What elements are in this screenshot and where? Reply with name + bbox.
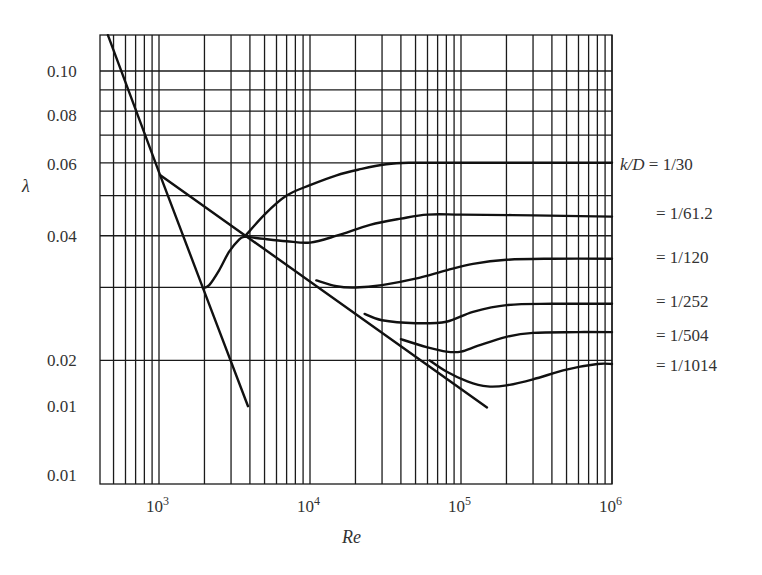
curve-k-d-1-30: [245, 163, 612, 237]
curve-k-d-1-120: [316, 259, 612, 288]
legend-kd-1-252: = 1/252: [656, 292, 709, 311]
legend: k/D = 1/30 = 1/61.2 = 1/120 = 1/252 = 1/…: [620, 155, 718, 375]
x-axis-title: Re: [341, 527, 361, 547]
y-tick-label: 0.06: [47, 155, 77, 174]
x-axis-ticks: 103104105106: [146, 494, 622, 516]
y-tick-label: 0.01: [47, 397, 77, 416]
curve-transition: [203, 237, 245, 289]
y-tick-label: 0.01: [47, 466, 77, 485]
legend-kd-1-1014: = 1/1014: [656, 356, 718, 375]
friction-factor-chart: 0.100.080.060.040.020.010.01 10310410510…: [0, 0, 762, 575]
legend-kd-1-504: = 1/504: [656, 326, 709, 345]
x-tick-label: 103: [146, 494, 169, 516]
curve-k-d-1-1014: [430, 360, 612, 386]
legend-kd-1-30-value: = 1/30: [645, 155, 693, 174]
legend-kd-1-120: = 1/120: [656, 248, 709, 267]
x-tick-label: 104: [297, 494, 320, 516]
y-tick-label: 0.04: [47, 227, 77, 246]
curve-laminar: [108, 35, 248, 406]
legend-kd-1-61: = 1/61.2: [656, 204, 713, 223]
x-tick-label: 106: [599, 494, 622, 516]
legend-kd-1-30: k/D = 1/30: [620, 155, 693, 174]
y-tick-label: 0.08: [47, 106, 77, 125]
x-tick-label: 105: [448, 494, 471, 516]
curves: [108, 35, 612, 407]
curve-k-d-1-252: [365, 304, 612, 324]
y-axis-ticks: 0.100.080.060.040.020.010.01: [47, 62, 77, 485]
curve-k-d-1-61-2: [245, 214, 612, 243]
y-tick-label: 0.10: [47, 62, 77, 81]
y-axis-title: λ: [21, 176, 30, 196]
y-tick-label: 0.02: [47, 351, 77, 370]
